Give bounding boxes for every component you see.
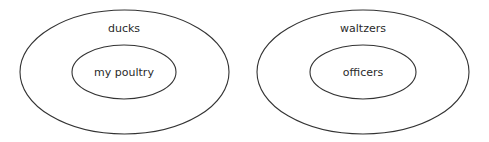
euler-diagram-right: waltzers officers (257, 10, 469, 134)
diagram-canvas: ducks my poultry waltzers officers (0, 0, 489, 142)
euler-diagram-left: ducks my poultry (20, 10, 229, 134)
inner-set-label: my poultry (94, 66, 154, 79)
outer-set-label: waltzers (340, 22, 386, 35)
inner-set-label: officers (343, 66, 384, 79)
outer-set-label: ducks (108, 22, 140, 35)
